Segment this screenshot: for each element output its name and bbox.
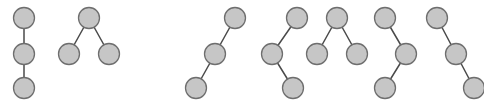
graph-node — [287, 8, 308, 29]
graph-node — [14, 78, 35, 99]
graph-figure — [0, 0, 484, 104]
graph-node — [307, 44, 328, 65]
graph-node — [396, 44, 417, 65]
graph-node — [327, 8, 348, 29]
graph-node — [464, 78, 484, 99]
graph-node — [79, 8, 100, 29]
graph-node — [99, 44, 120, 65]
graph-node — [375, 78, 396, 99]
graph-node — [262, 44, 283, 65]
graph-node — [205, 44, 226, 65]
graph-node — [14, 44, 35, 65]
graph-node — [446, 44, 467, 65]
graph-node — [347, 44, 368, 65]
graph-node — [427, 8, 448, 29]
graph-canvas — [0, 0, 484, 104]
graph-node — [283, 78, 304, 99]
graph-node — [14, 8, 35, 29]
graph-node — [59, 44, 80, 65]
graph-node — [225, 8, 246, 29]
graph-node — [375, 8, 396, 29]
nodes-layer — [14, 8, 484, 99]
graph-node — [186, 78, 207, 99]
